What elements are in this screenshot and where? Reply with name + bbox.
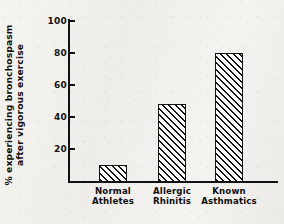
y-tick-mark-60 — [70, 84, 75, 86]
y-tick-mark-40 — [70, 116, 75, 118]
y-tick-mark-80 — [70, 52, 75, 54]
bar-known-asthmatics — [215, 53, 243, 182]
y-axis-line — [68, 19, 70, 183]
x-category-line-1: Known — [189, 186, 269, 196]
y-tick-label-60: 60 — [54, 80, 67, 90]
bar-allergic-rhinitis — [158, 104, 186, 182]
x-category-label-known-asthmatics: Known Asthmatics — [189, 186, 269, 206]
y-tick-label-80: 80 — [54, 48, 67, 58]
y-tick-label-100: 100 — [48, 16, 67, 26]
plot-area: 20 40 60 80 100 Normal Athletes Allergic — [0, 0, 284, 224]
y-tick-mark-100 — [70, 20, 75, 22]
y-tick-mark-20 — [70, 148, 75, 150]
bar-chart-figure: % experiencing bronchospasm after vigoro… — [0, 0, 284, 224]
x-category-line-2: Asthmatics — [189, 196, 269, 206]
y-tick-label-20: 20 — [54, 144, 67, 154]
bar-normal-athletes — [99, 165, 127, 182]
y-tick-label-40: 40 — [54, 112, 67, 122]
